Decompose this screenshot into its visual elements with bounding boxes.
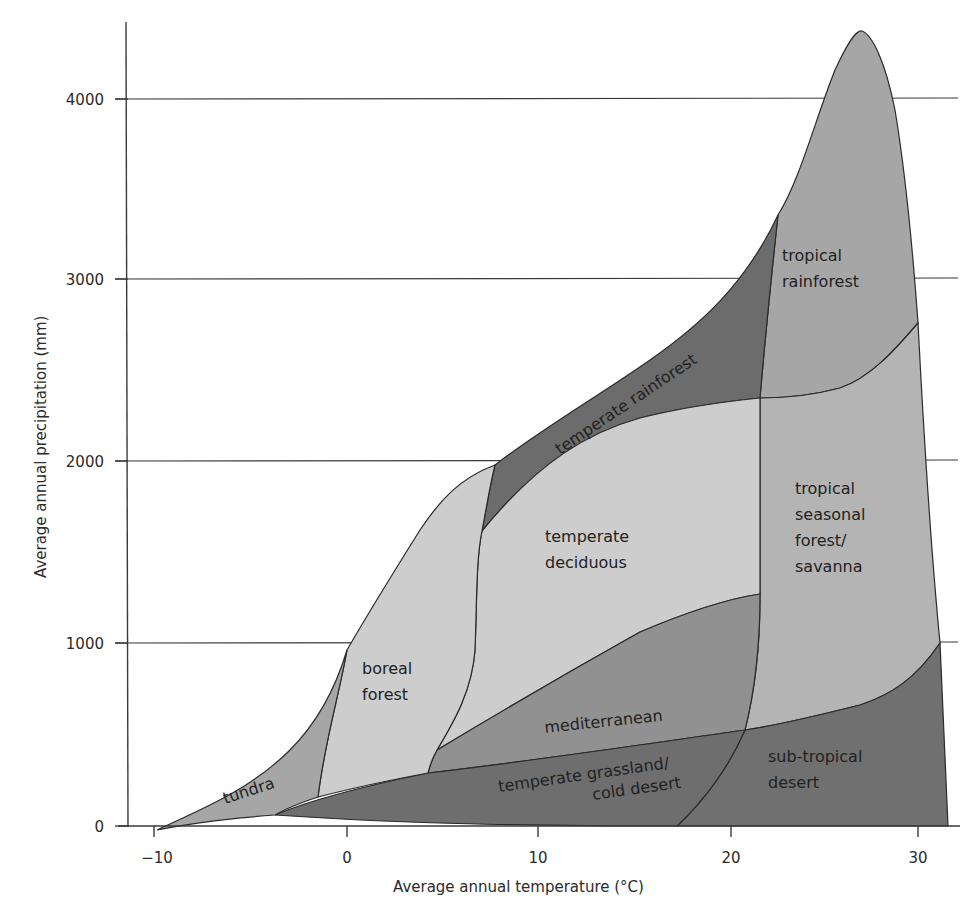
biome-chart: 0 1000 2000 3000 4000 −10 0 10 20 30 Ave… — [0, 0, 980, 915]
label-tropical-seasonal-2: seasonal — [795, 505, 866, 524]
y-tick-label: 0 — [94, 818, 104, 836]
label-boreal-1: boreal — [362, 659, 412, 678]
label-tropical-seasonal-4: savanna — [795, 557, 863, 576]
x-tick-label: 30 — [908, 849, 927, 867]
x-tick-label: 0 — [342, 849, 352, 867]
label-tropical-seasonal-1: tropical — [795, 479, 855, 498]
label-boreal-2: forest — [362, 685, 408, 704]
label-subtropical-desert-2: desert — [768, 773, 819, 792]
y-tick-label: 4000 — [66, 91, 104, 109]
y-axis-title: Average annual precipitation (mm) — [32, 316, 50, 578]
biome-regions — [157, 31, 948, 830]
label-tropical-rainforest-2: rainforest — [782, 272, 859, 291]
label-temperate-deciduous-1: temperate — [545, 527, 629, 546]
label-tropical-rainforest-1: tropical — [782, 246, 842, 265]
label-subtropical-desert-1: sub-tropical — [768, 747, 862, 766]
x-tick-label: 10 — [528, 849, 547, 867]
y-tick-labels: 0 1000 2000 3000 4000 — [66, 91, 104, 836]
x-axis-title: Average annual temperature (°C) — [393, 878, 644, 896]
y-tick-label: 1000 — [66, 635, 104, 653]
x-tick-label: −10 — [141, 849, 173, 867]
label-tropical-seasonal-3: forest/ — [795, 531, 847, 550]
y-tick-label: 3000 — [66, 271, 104, 289]
region-tropical-rainforest — [760, 31, 918, 398]
x-tick-labels: −10 0 10 20 30 — [141, 849, 927, 867]
y-axis-line — [126, 22, 128, 827]
label-temperate-deciduous-2: deciduous — [545, 553, 627, 572]
y-tick-label: 2000 — [66, 453, 104, 471]
x-tick-label: 20 — [721, 849, 740, 867]
